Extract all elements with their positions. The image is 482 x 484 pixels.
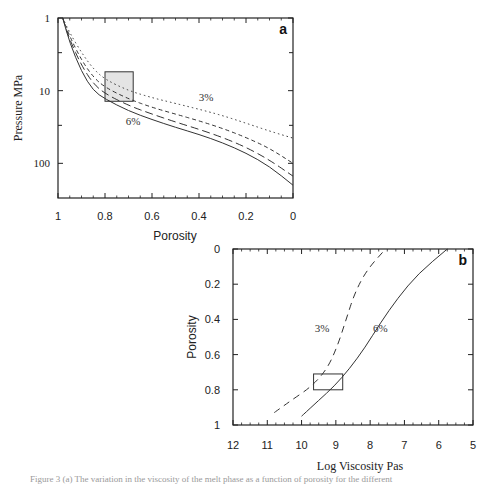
panel-label: a: [279, 21, 287, 37]
y-tick-label: 0.2: [205, 278, 220, 290]
x-axis-label: Log Viscosity Pas: [317, 459, 404, 473]
x-tick-label: 12: [227, 439, 239, 451]
panel-label: b: [458, 252, 467, 268]
plot-frame: [58, 18, 293, 198]
x-tick-label: 0.2: [238, 210, 253, 222]
curve-label: 6%: [126, 115, 141, 127]
x-tick-label: 0: [290, 210, 296, 222]
y-tick-label: 100: [34, 157, 51, 169]
chart-panel-a: 10.80.60.40.201101003%6%aPorosityPressur…: [11, 12, 296, 243]
x-tick-label: 0.8: [97, 210, 112, 222]
series-line-5pct: [63, 18, 293, 176]
x-tick-label: 0.6: [144, 210, 159, 222]
figure-caption: Figure 3 (a) The variation in the viscos…: [30, 474, 482, 484]
y-tick-label: 1: [214, 419, 220, 431]
x-tick-label: 11: [262, 439, 273, 451]
y-tick-label: 0: [214, 243, 220, 255]
x-tick-label: 10: [295, 439, 307, 451]
curve-label: 3%: [315, 322, 330, 334]
curve-label: 6%: [373, 322, 388, 334]
y-tick-label: 0.8: [205, 384, 220, 396]
y-tick-label: 0.6: [205, 349, 220, 361]
x-tick-label: 5: [470, 439, 476, 451]
y-axis-label: Porosity: [185, 315, 199, 358]
y-tick-label: 10: [39, 85, 51, 97]
y-tick-label: 0.4: [205, 313, 220, 325]
x-tick-label: 0.4: [191, 210, 206, 222]
x-tick-label: 8: [367, 439, 373, 451]
curve-label: 3%: [199, 91, 214, 103]
x-axis-label: Porosity: [153, 229, 196, 243]
plot-frame: [233, 249, 473, 425]
x-tick-label: 9: [333, 439, 339, 451]
series-line-6pct: [63, 18, 293, 185]
x-tick-label: 1: [55, 210, 61, 222]
series-line-4pct: [63, 18, 293, 163]
series-line-3pct: [63, 18, 293, 138]
y-axis-label: Pressure MPa: [11, 74, 25, 141]
chart-panel-b: 1211109876500.20.40.60.813%6%bLog Viscos…: [185, 243, 476, 473]
x-tick-label: 6: [436, 439, 442, 451]
y-tick-label: 1: [45, 12, 51, 24]
x-tick-label: 7: [401, 439, 407, 451]
